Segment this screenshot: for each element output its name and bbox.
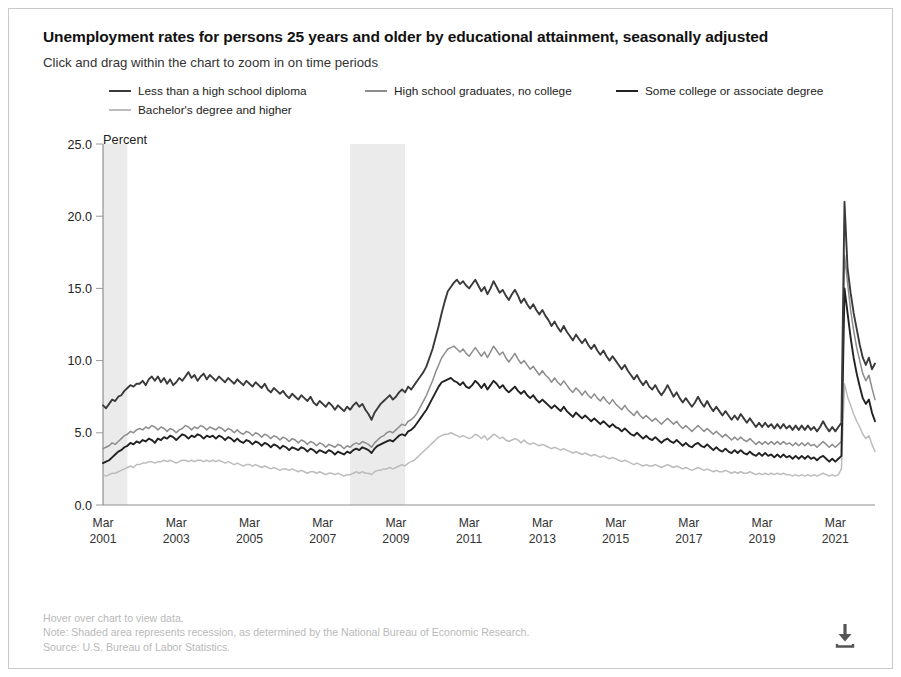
chart-area[interactable]: Percent 0.05.010.015.020.025.0Mar2001Mar… bbox=[43, 126, 883, 556]
x-tick-label-month-5: Mar bbox=[459, 516, 480, 530]
x-tick-label-month-2: Mar bbox=[239, 516, 260, 530]
x-tick-label-year-3: 2007 bbox=[309, 532, 336, 546]
footer-source: Source: U.S. Bureau of Labor Statistics. bbox=[43, 640, 873, 655]
x-tick-label-year-4: 2009 bbox=[382, 532, 409, 546]
legend-label-series-2: Some college or associate degree bbox=[645, 84, 823, 98]
footer-note: Note: Shaded area represents recession, … bbox=[43, 625, 873, 640]
y-tick-label-2: 10.0 bbox=[67, 354, 92, 368]
legend-label-series-0: Less than a high school diploma bbox=[138, 84, 307, 98]
y-tick-label-5: 25.0 bbox=[67, 138, 92, 152]
recession-band-0 bbox=[103, 144, 127, 505]
chart-footer: Hover over chart to view data. Note: Sha… bbox=[43, 611, 873, 655]
y-tick-label-1: 5.0 bbox=[74, 426, 92, 440]
x-tick-label-year-0: 2001 bbox=[89, 532, 116, 546]
x-tick-label-year-10: 2021 bbox=[822, 532, 849, 546]
x-tick-label-month-3: Mar bbox=[312, 516, 333, 530]
legend-swatch-series-0 bbox=[109, 90, 131, 92]
y-tick-label-0: 0.0 bbox=[74, 499, 92, 513]
x-tick-label-month-8: Mar bbox=[678, 516, 699, 530]
chart-widget-inner: Unemployment rates for persons 25 years … bbox=[43, 27, 872, 660]
x-tick-label-year-8: 2017 bbox=[675, 532, 702, 546]
legend-label-series-1: High school graduates, no college bbox=[394, 84, 572, 98]
x-tick-label-year-9: 2019 bbox=[749, 532, 776, 546]
legend-swatch-series-2 bbox=[616, 90, 638, 92]
x-tick-label-month-6: Mar bbox=[532, 516, 553, 530]
x-tick-label-month-4: Mar bbox=[385, 516, 406, 530]
series-line-0[interactable] bbox=[103, 202, 875, 432]
page-title: Unemployment rates for persons 25 years … bbox=[43, 27, 833, 46]
chart-subtitle: Click and drag within the chart to zoom … bbox=[43, 55, 872, 71]
chart-legend: Less than a high school diploma High sch… bbox=[43, 84, 863, 122]
legend-item-some-college[interactable]: Some college or associate degree bbox=[616, 84, 823, 98]
legend-label-series-3: Bachelor's degree and higher bbox=[138, 103, 292, 117]
x-tick-label-month-1: Mar bbox=[166, 516, 187, 530]
y-tick-label-3: 15.0 bbox=[67, 282, 92, 296]
screenshot-root: Unemployment rates for persons 25 years … bbox=[0, 0, 901, 677]
series-line-1[interactable] bbox=[103, 255, 875, 448]
legend-item-high-school-graduates[interactable]: High school graduates, no college bbox=[365, 84, 572, 98]
footer-hover-hint: Hover over chart to view data. bbox=[43, 611, 873, 626]
recession-band-1 bbox=[350, 144, 405, 505]
chart-widget-frame: Unemployment rates for persons 25 years … bbox=[8, 8, 893, 669]
x-tick-label-year-6: 2013 bbox=[529, 532, 556, 546]
x-tick-label-year-5: 2011 bbox=[456, 532, 482, 546]
x-tick-label-year-2: 2005 bbox=[236, 532, 263, 546]
x-tick-label-month-7: Mar bbox=[605, 516, 626, 530]
legend-swatch-series-3 bbox=[109, 109, 131, 111]
x-tick-label-year-1: 2003 bbox=[163, 532, 190, 546]
legend-item-bachelors-degree[interactable]: Bachelor's degree and higher bbox=[109, 103, 292, 117]
y-tick-label-4: 20.0 bbox=[67, 210, 92, 224]
x-tick-label-year-7: 2015 bbox=[602, 532, 629, 546]
legend-item-less-than-high-school[interactable]: Less than a high school diploma bbox=[109, 84, 307, 98]
x-tick-label-month-9: Mar bbox=[752, 516, 773, 530]
x-tick-label-month-10: Mar bbox=[825, 516, 846, 530]
series-line-3[interactable] bbox=[103, 384, 875, 476]
x-tick-label-month-0: Mar bbox=[93, 516, 114, 530]
legend-swatch-series-1 bbox=[365, 90, 387, 92]
download-icon[interactable] bbox=[830, 620, 860, 650]
chart-plot-svg[interactable]: 0.05.010.015.020.025.0Mar2001Mar2003Mar2… bbox=[43, 126, 883, 556]
